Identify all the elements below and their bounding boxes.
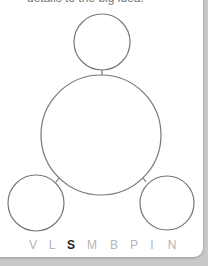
circle-center[interactable] bbox=[41, 75, 161, 195]
letter-i[interactable]: I bbox=[150, 238, 153, 252]
letter-v[interactable]: V bbox=[29, 238, 37, 252]
circle-top[interactable] bbox=[74, 14, 130, 70]
connector-bottom-left bbox=[56, 178, 59, 182]
letter-l[interactable]: L bbox=[49, 238, 56, 252]
connector-bottom-right bbox=[143, 178, 146, 182]
letter-b[interactable]: B bbox=[110, 238, 118, 252]
hub-and-spoke-diagram bbox=[0, 0, 208, 266]
letter-m[interactable]: M bbox=[87, 238, 97, 252]
letter-p[interactable]: P bbox=[130, 238, 138, 252]
letter-n[interactable]: N bbox=[168, 238, 177, 252]
circle-bottom-left[interactable] bbox=[8, 175, 64, 231]
letter-selector: V L S M B P I N bbox=[0, 238, 208, 254]
letter-s[interactable]: S bbox=[67, 238, 75, 252]
circle-bottom-right[interactable] bbox=[140, 176, 194, 230]
